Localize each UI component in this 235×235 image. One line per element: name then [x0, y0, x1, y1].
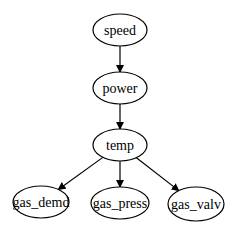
node-label: speed [104, 23, 136, 38]
node-power: power [93, 72, 147, 104]
nodes: speedpowertempgas_demdgas_pressgas_valv [13, 14, 224, 221]
node-gas-press: gas_press [91, 187, 149, 219]
node-label: power [103, 81, 138, 96]
node-temp: temp [93, 129, 147, 161]
node-gas-valv: gas_valv [168, 187, 224, 221]
node-label: temp [106, 138, 134, 153]
graph-svg: speedpowertempgas_demdgas_pressgas_valv [0, 0, 235, 235]
diagram-canvas: speedpowertempgas_demdgas_pressgas_valv [0, 0, 235, 235]
node-speed: speed [93, 14, 147, 46]
node-gas-demd: gas_demd [13, 186, 70, 218]
node-label: gas_valv [171, 197, 221, 212]
edges [58, 46, 178, 191]
edge-temp-to-gas-valv [136, 158, 178, 191]
edge-temp-to-gas-demd [58, 157, 102, 189]
node-label: gas_press [93, 196, 147, 211]
node-label: gas_demd [13, 195, 70, 210]
